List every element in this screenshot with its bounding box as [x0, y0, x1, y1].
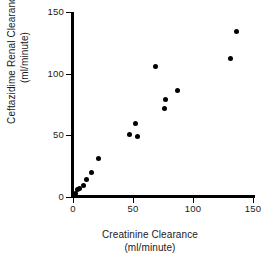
data-point: [163, 97, 168, 102]
y-tick-label: 50: [36, 130, 64, 140]
data-point: [228, 56, 233, 61]
y-tick-label: 150: [36, 7, 64, 17]
x-axis-title-line1: Creatinine Clearance: [102, 229, 198, 240]
plot-area: [73, 12, 253, 197]
y-axis-title: Ceftazidime Renal Clearance (ml/minute): [6, 0, 31, 138]
x-tick-label: 150: [238, 204, 268, 214]
data-point: [162, 106, 167, 111]
data-point: [133, 121, 138, 126]
data-point: [81, 183, 86, 188]
data-point: [127, 132, 132, 137]
y-tick-mark: [66, 197, 71, 198]
data-point: [96, 156, 101, 161]
y-axis-title-line1: Ceftazidime Renal Clearance: [6, 0, 17, 124]
data-point: [84, 177, 89, 182]
x-axis-title: Creatinine Clearance (ml/minute): [45, 228, 255, 254]
data-point: [89, 170, 94, 175]
x-tick-label: 0: [58, 204, 88, 214]
y-tick-mark: [66, 135, 71, 136]
x-axis-title-line2: (ml/minute): [45, 241, 255, 254]
x-tick-label: 50: [118, 204, 148, 214]
data-point: [153, 64, 158, 69]
y-tick-label: 100: [36, 69, 64, 79]
data-point: [234, 29, 239, 34]
y-tick-mark: [66, 12, 71, 13]
x-tick-label: 100: [178, 204, 208, 214]
y-tick-label: 0: [36, 192, 64, 202]
scatter-plot-figure: 050100150 050100150 Ceftazidime Renal Cl…: [0, 0, 275, 263]
y-tick-mark: [66, 74, 71, 75]
y-axis-title-line2: (ml/minute): [18, 0, 31, 138]
data-point: [175, 88, 180, 93]
data-point: [135, 134, 140, 139]
